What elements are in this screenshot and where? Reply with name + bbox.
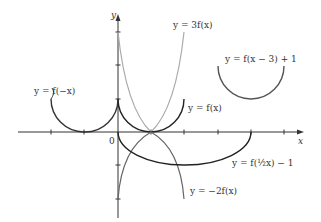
origin-label: 0: [109, 136, 115, 146]
curve-neg2f: [118, 132, 184, 199]
y-axis-label: y: [110, 10, 117, 20]
label-neg2f: y = −2f(x): [189, 186, 237, 196]
label-stretch: y = f(½x) − 1: [231, 158, 294, 168]
curve-f: [118, 99, 184, 132]
curve-shift: [218, 66, 284, 99]
transformations-diagram: y x 0 y = 3f(x) y = f(x − 3) + 1 y = f(−…: [0, 0, 321, 222]
label-shift: y = f(x − 3) + 1: [224, 54, 297, 64]
label-f-neg-x: y = f(−x): [33, 86, 75, 96]
curve-f-neg-x: [51, 99, 118, 132]
x-axis-label: x: [298, 136, 303, 146]
curve-3f: [118, 32, 184, 132]
label-3f: y = 3f(x): [172, 20, 213, 30]
label-f: y = f(x): [187, 103, 222, 113]
